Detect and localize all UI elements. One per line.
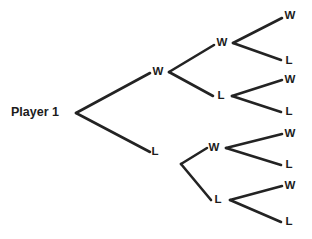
root-node-label: Player 1 [11,105,59,119]
leaf-node-wll: L [285,105,292,117]
tree-canvas: Player 1 W L W L W L W L W L W L W L [0,0,312,239]
leaf-node-www: W [285,9,296,21]
leaf-node-wlw: W [285,73,296,85]
leaf-node-lwl: L [285,158,292,170]
level2-node-loss-loss: L [214,193,221,205]
leaf-node-lww: W [285,127,296,139]
diagram-background [0,0,312,239]
level2-node-win-loss: L [217,89,224,101]
level2-node-loss-win: W [209,141,220,153]
leaf-node-lll: L [285,215,292,227]
level1-node-win: W [153,65,164,77]
level2-node-win-win: W [217,36,228,48]
level1-node-loss: L [151,145,158,157]
probability-tree-diagram: Player 1 W L W L W L W L W L W L W L [0,0,312,239]
leaf-node-llw: W [285,179,296,191]
leaf-node-wwl: L [285,54,292,66]
